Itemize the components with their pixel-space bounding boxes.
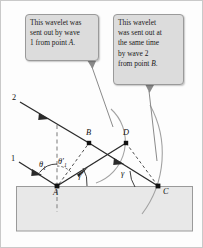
theta-1-prime-subscript: 1 xyxy=(64,162,67,168)
incident-ray-2-arrow xyxy=(38,113,49,120)
point-label-A: A xyxy=(53,189,58,197)
callout-wavelet-from-A: This wavelet was sent out by wave 1 from… xyxy=(25,14,99,61)
angle-arc-gamma xyxy=(130,171,135,187)
ray-label-2: 2 xyxy=(12,94,16,102)
leader-tip-callout-1 xyxy=(87,60,96,69)
callout-2-line-3: the same time xyxy=(118,38,179,48)
dashed-D-to-C xyxy=(126,143,158,186)
callout-1-line-1: This wavelet was xyxy=(30,18,94,28)
callout-2-line-4: by wave 2 xyxy=(118,49,179,59)
leader-line-callout-2 xyxy=(149,91,157,161)
callout-wavelet-from-B: This wavelet was sent out at the same ti… xyxy=(113,14,184,85)
ray-label-1: 1 xyxy=(11,155,15,163)
angle-label-gamma-prime: γ′ xyxy=(78,172,83,180)
point-marker-D xyxy=(124,141,128,145)
point-label-B: B xyxy=(86,129,91,137)
point-marker-B xyxy=(87,141,91,145)
callout-2-line-5-post: . xyxy=(156,59,158,68)
angle-label-theta-1-prime: θ′1 xyxy=(58,158,67,168)
angle-label-gamma: γ xyxy=(121,170,124,178)
point-label-C: C xyxy=(163,188,169,196)
incident-ray-2 xyxy=(20,102,89,143)
callout-2-line-5: from point B. xyxy=(118,59,179,69)
callout-1-line-3-post: . xyxy=(73,38,75,47)
callout-1-line-3: 1 from point A. xyxy=(30,38,94,48)
ray-2-to-C-arrow xyxy=(113,158,124,165)
callout-1-line-3-pre: 1 from point xyxy=(30,38,69,47)
point-label-D: D xyxy=(123,129,129,137)
figure-container: This wavelet was sent out by wave 1 from… xyxy=(0,0,203,248)
angle-label-theta-1: θ1 xyxy=(39,161,46,171)
callout-2-line-1: This wavelet xyxy=(118,18,179,28)
callout-2-line-5-pre: from point xyxy=(118,59,151,68)
point-marker-C xyxy=(156,184,161,189)
leader-line-callout-1 xyxy=(92,67,113,127)
ray-2-to-C xyxy=(89,143,158,186)
theta-1-subscript: 1 xyxy=(43,165,46,171)
leader-tip-callout-2 xyxy=(145,84,154,93)
callout-1-line-2: sent out by wave xyxy=(30,28,94,38)
callout-2-line-2: was sent out at xyxy=(118,28,179,38)
